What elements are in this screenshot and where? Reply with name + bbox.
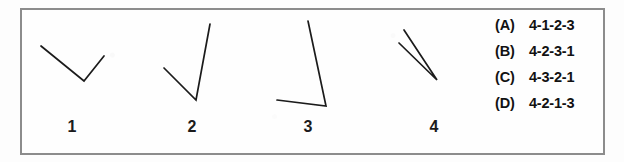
answer-option-b-key: (B) xyxy=(495,43,529,59)
shape-3-polyline xyxy=(277,21,326,106)
shape-label-2: 2 xyxy=(180,119,204,135)
shape-4-polyline xyxy=(399,30,437,80)
shape-label-4: 4 xyxy=(422,119,446,135)
answer-option-a-key: (A) xyxy=(495,17,529,33)
shape-label-1: 1 xyxy=(60,119,84,135)
answer-option-d-value: 4-2-1-3 xyxy=(529,95,574,111)
answer-option-b-value: 4-2-3-1 xyxy=(529,43,574,59)
answer-option-c-value: 4-3-2-1 xyxy=(529,69,574,85)
answer-option-b[interactable]: (B) 4-2-3-1 xyxy=(495,43,600,69)
answer-option-c-key: (C) xyxy=(495,69,529,85)
shape-label-3: 3 xyxy=(296,119,320,135)
answer-option-c[interactable]: (C) 4-3-2-1 xyxy=(495,69,600,95)
answer-option-a[interactable]: (A) 4-1-2-3 xyxy=(495,17,600,43)
answer-option-d-key: (D) xyxy=(495,95,529,111)
answer-options-list: (A) 4-1-2-3 (B) 4-2-3-1 (C) 4-3-2-1 (D) … xyxy=(495,17,600,121)
shape-2-polyline xyxy=(164,24,210,100)
answer-option-d[interactable]: (D) 4-2-1-3 xyxy=(495,95,600,121)
shape-1-polyline xyxy=(41,46,104,81)
answer-option-a-value: 4-1-2-3 xyxy=(529,17,574,33)
figure-root: 1 2 3 4 (A) 4-1-2-3 (B) 4-2-3-1 (C) 4-3-… xyxy=(0,0,624,162)
